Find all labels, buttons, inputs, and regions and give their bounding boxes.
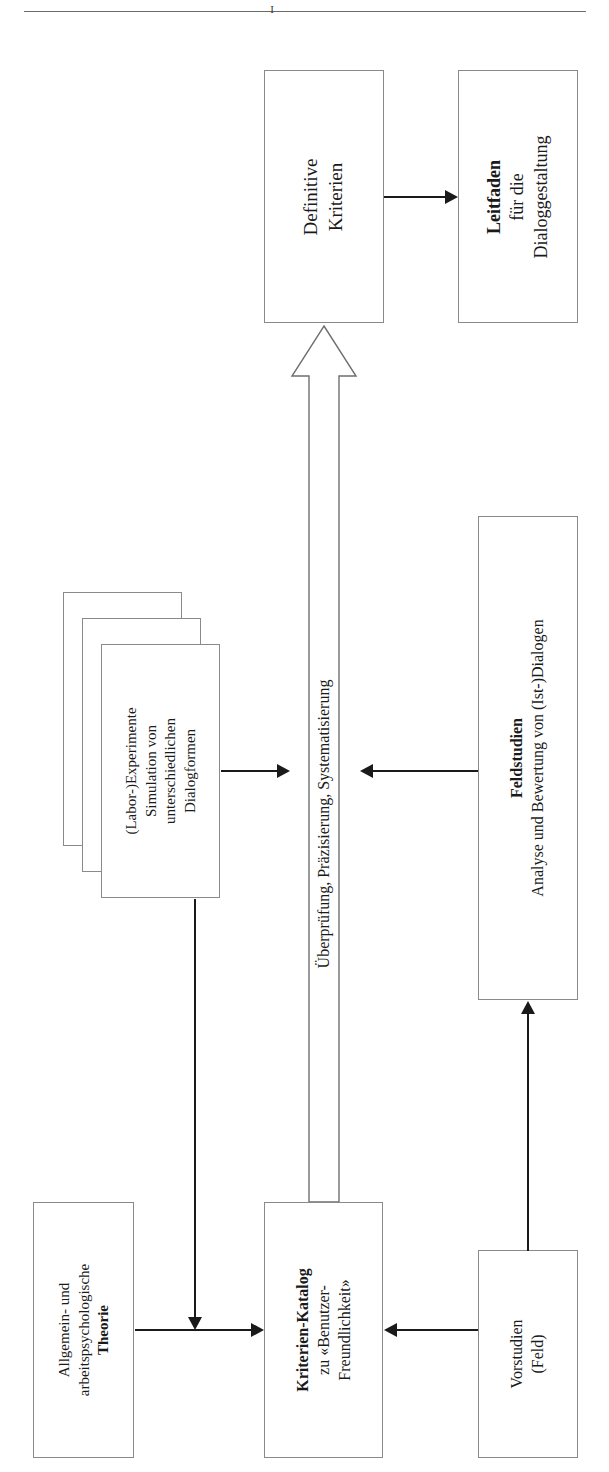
page-header-glyph: I [262, 3, 282, 15]
node-feldstudien-label: Feldstudien Analyse und Bewertung von (I… [507, 619, 549, 896]
node-kriterien-katalog-label: Kriterien-Katalog zu «Benutzer- Freundli… [292, 1268, 354, 1392]
node-leitfaden-label: Leitfaden für die Dialoggestaltung [483, 135, 553, 258]
node-feldstudien: Feldstudien Analyse und Bewertung von (I… [478, 516, 578, 1000]
node-vorstudien: Vorstudien (Feld) [478, 1250, 578, 1458]
process-arrow-ueberpruefung: Überprüfung, Präzisierung, Systematisier… [290, 324, 358, 1204]
node-allgemein-theorie-label: Allgemein- und arbeitspsychologische The… [54, 1264, 113, 1396]
node-vorstudien-label: Vorstudien (Feld) [507, 1319, 549, 1388]
node-labor-experimente-label: (Labor-)Experimente Simulation von unter… [122, 707, 200, 834]
node-definitive-kriterien-label: Definitive Kriterien [299, 158, 348, 235]
node-kriterien-katalog: Kriterien-Katalog zu «Benutzer- Freundli… [264, 1202, 383, 1458]
node-labor-experimente: (Labor-)Experimente Simulation von unter… [101, 644, 220, 898]
diagram-page: I Definitive Kriterien Leitfaden für die… [0, 0, 609, 1472]
node-definitive-kriterien: Definitive Kriterien [264, 70, 384, 323]
node-leitfaden: Leitfaden für die Dialoggestaltung [458, 70, 578, 323]
page-header-rule: I [24, 11, 586, 12]
process-arrow-label: Überprüfung, Präzisierung, Systematisier… [314, 680, 333, 969]
node-allgemein-theorie: Allgemein- und arbeitspsychologische The… [33, 1202, 134, 1458]
